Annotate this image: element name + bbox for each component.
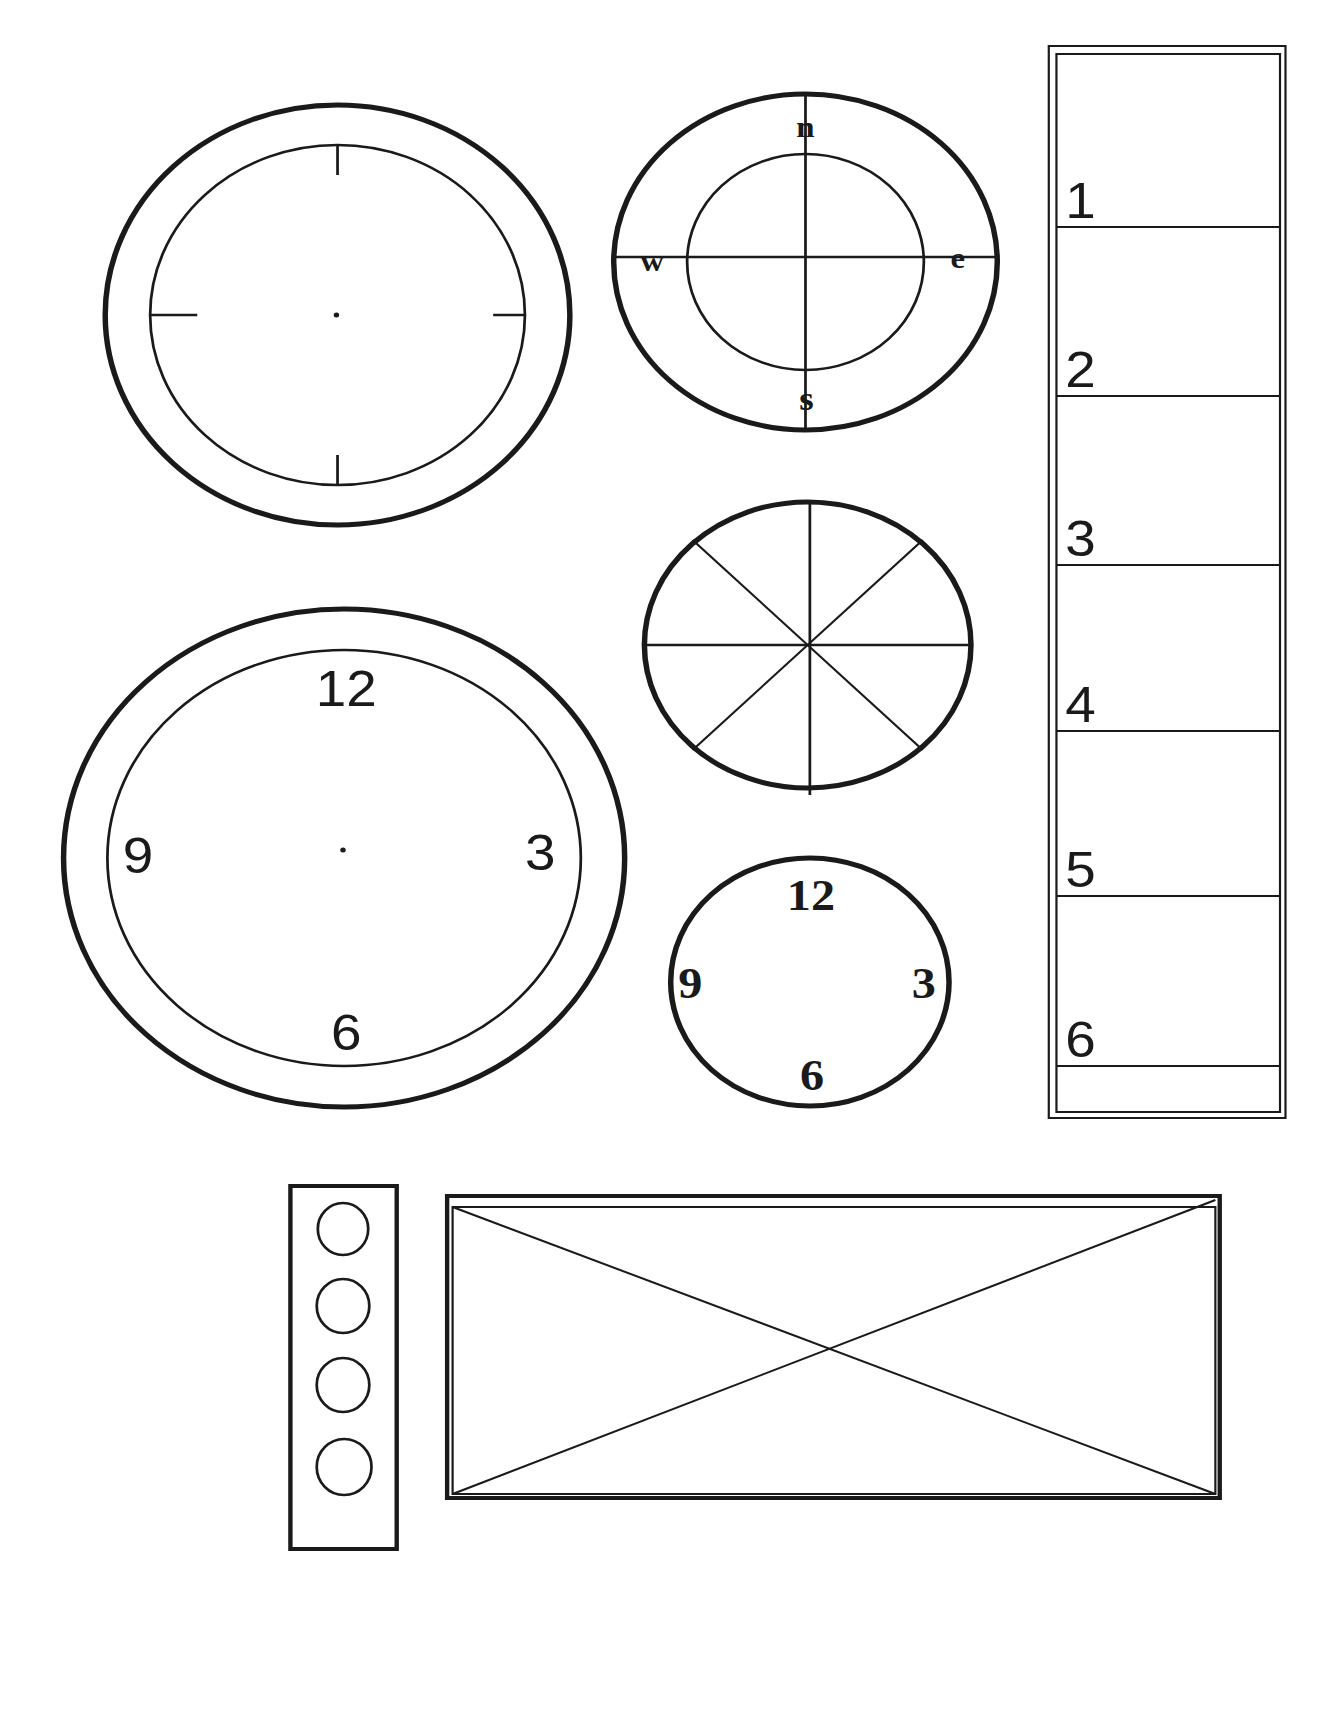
scale-mark-6: 6: [1065, 1012, 1095, 1067]
scale-mark-3: 3: [1065, 511, 1095, 566]
compass-rose: n w e s: [614, 94, 998, 430]
sector-wheel: [644, 502, 971, 795]
clock-number-9: 9: [123, 828, 153, 883]
crossed-rectangle: [447, 1196, 1220, 1498]
clock-number-6: 6: [331, 1005, 361, 1060]
vertical-scale: 1 2 3 4 5 6: [1049, 46, 1286, 1118]
clock-number-3: 3: [912, 959, 936, 1008]
numbered-clock-large: 12 3 6 9: [64, 609, 625, 1107]
compass-label-south: s: [799, 379, 814, 417]
numbered-clock-small: 12 3 6 9: [671, 858, 949, 1106]
worksheet-canvas: n w e s 12 3 6 9 12 3 6 9 1: [0, 0, 1337, 1734]
scale-mark-1: 1: [1065, 173, 1095, 228]
compass-label-west: w: [640, 244, 664, 277]
center-dot: [334, 313, 339, 318]
blank-clock: [105, 105, 570, 525]
scale-mark-4: 4: [1065, 677, 1095, 732]
clock-number-12: 12: [787, 871, 835, 920]
light-circle-2: [317, 1279, 370, 1333]
center-dot: [340, 848, 345, 853]
clock-number-6: 6: [800, 1051, 824, 1100]
light-circle-1: [318, 1203, 368, 1255]
clock-number-12: 12: [316, 661, 377, 716]
compass-label-east: e: [951, 241, 966, 274]
light-circle-4: [317, 1439, 372, 1495]
scale-mark-5: 5: [1065, 842, 1095, 897]
light-circle-3: [317, 1358, 370, 1412]
scale-mark-2: 2: [1065, 342, 1095, 397]
traffic-light-strip: [290, 1186, 396, 1549]
clock-number-9: 9: [678, 959, 702, 1008]
clock-number-3: 3: [525, 825, 555, 880]
compass-label-north: n: [796, 110, 815, 143]
